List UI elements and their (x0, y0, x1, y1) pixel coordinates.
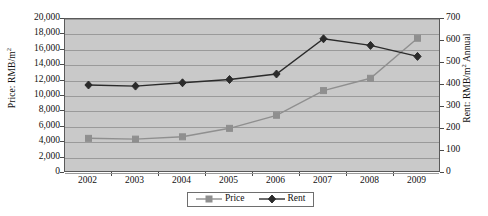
x-axis-tick-label: 2006 (249, 176, 303, 186)
data-point (320, 35, 327, 43)
y-axis-right-tick-label: 100 (446, 145, 480, 155)
y-axis-left-tick-label: 8,000 (14, 105, 60, 115)
series-line (89, 38, 418, 139)
legend-label: Rent (288, 194, 306, 204)
data-point (227, 125, 233, 131)
series-rent (85, 35, 421, 90)
data-point (133, 136, 139, 142)
data-point (85, 81, 92, 89)
x-axis-tick-label: 2009 (390, 176, 444, 186)
data-point (179, 79, 186, 87)
x-axis-tick-label: 2008 (343, 176, 397, 186)
data-point (273, 70, 280, 78)
legend-diamond-marker-icon (259, 194, 285, 204)
y-axis-left-tick-label: 10,000 (14, 90, 60, 100)
y-axis-right-tick-label: 500 (446, 57, 480, 67)
y-axis-left-title-exponent: 2 (5, 48, 12, 51)
y-axis-left-tick-label: 14,000 (14, 59, 60, 69)
data-point (132, 82, 139, 90)
y-axis-left-tick-label: 0 (14, 167, 60, 177)
y-axis-left-tick-label: 12,000 (14, 75, 60, 85)
legend-item-price[interactable]: Price (196, 194, 245, 204)
y-axis-right-tick-label: 0 (446, 167, 480, 177)
y-axis-left-tick-label: 6,000 (14, 121, 60, 131)
x-axis-tick-label: 2003 (108, 176, 162, 186)
x-axis-tick-label: 2007 (296, 176, 350, 186)
data-point (180, 134, 186, 140)
y-axis-right-tick-label: 600 (446, 35, 480, 45)
legend-item-rent[interactable]: Rent (259, 194, 306, 204)
data-point (86, 135, 92, 141)
y-axis-left-tick-label: 16,000 (14, 44, 60, 54)
y-axis-right-tick-label: 300 (446, 101, 480, 111)
legend-square-marker-icon (196, 194, 222, 204)
gridline (65, 173, 439, 174)
y-axis-left-tick-mark (60, 172, 64, 173)
data-point (414, 52, 421, 60)
data-point (321, 88, 327, 94)
y-axis-right-tick-label: 400 (446, 79, 480, 89)
x-axis-tick-label: 2004 (155, 176, 209, 186)
x-axis-tick-label: 2005 (202, 176, 256, 186)
data-point (415, 35, 421, 41)
y-axis-right-title-text-a: Rent: RMB/m (462, 67, 472, 122)
data-point (368, 75, 374, 81)
y-axis-left-tick-label: 20,000 (14, 13, 60, 23)
y-axis-left-tick-label: 18,000 (14, 28, 60, 38)
y-axis-right-tick-label: 200 (446, 123, 480, 133)
y-axis-right-tick-label: 700 (446, 13, 480, 23)
y-axis-left-tick-label: 4,000 (14, 136, 60, 146)
data-point (226, 76, 233, 84)
chart-legend: PriceRent (187, 192, 314, 207)
legend-label: Price (225, 194, 245, 204)
y-axis-left-tick-label: 2,000 (14, 152, 60, 162)
x-axis-tick-label: 2002 (61, 176, 115, 186)
plot-area (64, 18, 440, 172)
data-point (367, 41, 374, 49)
data-point (274, 112, 280, 118)
series-layer (65, 19, 441, 173)
chart-container: Price: RMB/m2 Rent: RMB/m2 Annual 02,000… (0, 0, 488, 216)
